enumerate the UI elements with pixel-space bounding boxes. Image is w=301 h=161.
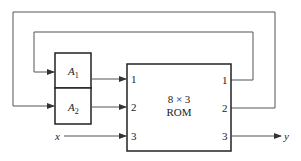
rom-block: 8 × 3 ROM 1 2 3 1 2 3 xyxy=(127,64,231,151)
rom-output-3-label: 3 xyxy=(222,130,228,142)
register-A1: A1 xyxy=(55,53,91,88)
rom-size-label: 8 × 3 xyxy=(168,93,191,105)
rom-output-2-label: 2 xyxy=(222,102,228,114)
rom-sequential-circuit-diagram: A1 A2 x 8 × 3 ROM 1 2 3 1 2 3 y xyxy=(0,0,301,161)
rom-input-2-label: 2 xyxy=(131,101,137,113)
output-y-label: y xyxy=(283,130,289,142)
rom-output-1-label: 1 xyxy=(222,74,228,86)
register-A2: A2 xyxy=(55,88,91,124)
input-x-label: x xyxy=(54,130,60,142)
rom-type-label: ROM xyxy=(166,106,191,118)
rom-input-1-label: 1 xyxy=(131,73,137,85)
rom-input-3-label: 3 xyxy=(131,130,137,142)
